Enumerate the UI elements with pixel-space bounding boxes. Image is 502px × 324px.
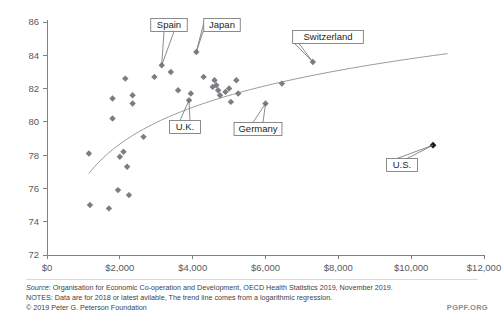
callout-label-spain: Spain	[157, 19, 181, 30]
data-point	[86, 150, 92, 156]
pgpf-watermark: PGPF.ORG	[447, 303, 488, 312]
data-point	[124, 164, 130, 170]
x-axis-tick-label: $2,000	[105, 262, 134, 273]
callout-leader-line	[196, 30, 203, 52]
data-point	[140, 134, 146, 140]
x-axis-tick-label: $6,000	[251, 262, 280, 273]
data-point	[228, 99, 234, 105]
data-point	[109, 115, 115, 121]
footer-notes: Source: Organisation for Economic Co-ope…	[26, 283, 478, 313]
x-axis-tick-label: $10,000	[394, 262, 428, 273]
y-axis-tick-label: 72	[28, 249, 39, 260]
source-text: : Organisation for Economic Co-operation…	[49, 283, 393, 292]
x-axis-tick-label: $0	[42, 262, 53, 273]
data-point	[233, 77, 239, 83]
y-axis-tick-label: 74	[28, 216, 39, 227]
source-label: Source	[26, 283, 49, 292]
chart-container: 7274767880828486$0$2,000$4,000$6,000$8,0…	[0, 0, 502, 324]
callout-label-us: U.S.	[393, 159, 411, 170]
data-point	[175, 87, 181, 93]
x-axis-tick-label: $8,000	[324, 262, 353, 273]
callout-leader-line	[397, 145, 433, 158]
callout-leader-line	[180, 100, 189, 120]
data-point-us	[430, 142, 437, 149]
y-axis-tick-label: 80	[28, 116, 39, 127]
y-axis-tick-label: 84	[28, 50, 39, 61]
y-axis-tick-label: 82	[28, 83, 39, 94]
data-point	[117, 154, 123, 160]
x-axis-tick-label: $12,000	[467, 262, 501, 273]
data-point	[129, 92, 135, 98]
trend-line	[89, 54, 448, 174]
data-point	[109, 95, 115, 101]
data-point	[188, 90, 194, 96]
data-point	[151, 74, 157, 80]
callout-leader-line	[189, 100, 190, 120]
x-axis-tick-label: $4,000	[178, 262, 207, 273]
footer-copyright-line: © 2019 Peter G. Peterson Foundation	[26, 303, 478, 313]
callout-label-germany: Germany	[238, 123, 277, 134]
footer-source-line: Source: Organisation for Economic Co-ope…	[26, 283, 478, 293]
data-point	[200, 74, 206, 80]
callout-labels-group: SpainJapanU.K.GermanySwitzerlandU.S.	[151, 19, 433, 172]
callout-label-uk: U.K.	[176, 121, 194, 132]
trend-line-group	[89, 54, 448, 174]
data-point	[106, 205, 112, 211]
y-axis-tick-label: 76	[28, 183, 39, 194]
y-axis-tick-label: 86	[28, 16, 39, 27]
scatter-plot: 7274767880828486$0$2,000$4,000$6,000$8,0…	[0, 0, 502, 280]
data-point	[115, 187, 121, 193]
callout-label-japan: Japan	[209, 19, 235, 30]
y-axis-tick-label: 78	[28, 150, 39, 161]
data-point	[168, 69, 174, 75]
callout-leader-line	[293, 42, 313, 62]
data-point	[126, 192, 132, 198]
footer-divider	[26, 279, 478, 280]
footer-notes-line: NOTES: Data are for 2018 or latest avila…	[26, 293, 478, 303]
data-point	[129, 100, 135, 106]
callout-label-switzerland: Switzerland	[303, 31, 352, 42]
data-point	[87, 202, 93, 208]
data-point	[122, 75, 128, 81]
data-point	[120, 149, 126, 155]
data-point	[235, 90, 241, 96]
callout-leader-line	[407, 145, 433, 158]
